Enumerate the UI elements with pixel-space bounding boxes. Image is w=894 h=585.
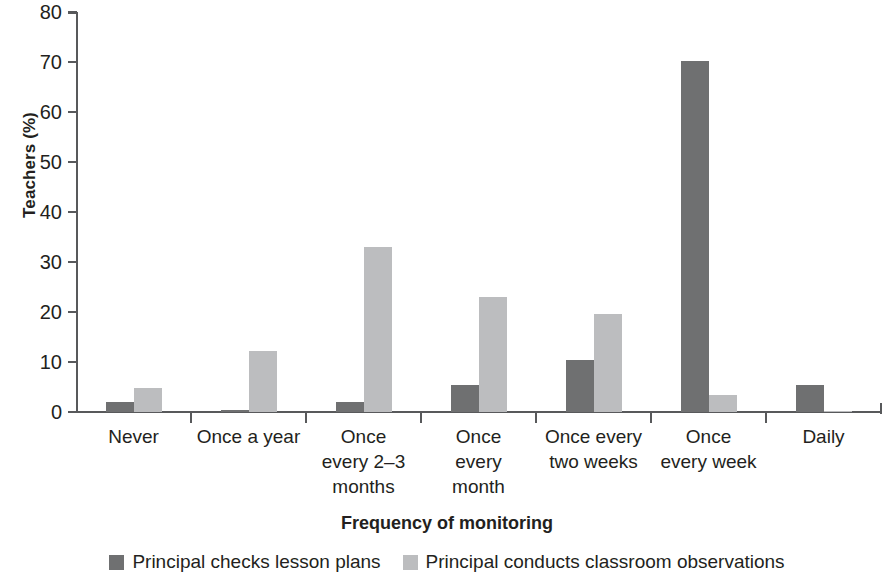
plot-area xyxy=(76,12,881,412)
bar xyxy=(336,402,364,412)
bar xyxy=(364,247,392,412)
bar xyxy=(249,351,277,412)
x-group-tick xyxy=(190,412,192,423)
legend-label: Principal conducts classroom observation… xyxy=(426,551,785,573)
y-tick-label: 80 xyxy=(0,2,62,22)
bar xyxy=(594,314,622,413)
bar xyxy=(134,388,162,412)
x-group-tick xyxy=(765,412,767,423)
bar xyxy=(106,402,134,412)
bar-chart-figure: Teachers (%) 01020304050607080 NeverOnce… xyxy=(0,0,894,585)
bar xyxy=(566,360,594,413)
y-tick-label: 60 xyxy=(0,102,62,122)
x-axis-title: Frequency of monitoring xyxy=(0,513,894,534)
x-group-tick xyxy=(305,412,307,423)
legend-item: Principal checks lesson plans xyxy=(109,551,380,573)
bar xyxy=(451,385,479,413)
bar xyxy=(681,61,709,412)
x-group-tick xyxy=(650,412,652,423)
bar xyxy=(479,297,507,412)
x-group-tick xyxy=(535,412,537,423)
bar xyxy=(796,385,824,413)
bar xyxy=(824,411,852,413)
legend-label: Principal checks lesson plans xyxy=(132,551,380,573)
legend-item: Principal conducts classroom observation… xyxy=(403,551,785,573)
y-tick-label: 50 xyxy=(0,152,62,172)
legend-swatch-icon xyxy=(403,555,418,570)
legend-swatch-icon xyxy=(109,555,124,570)
y-tick-label: 20 xyxy=(0,302,62,322)
y-tick-label: 10 xyxy=(0,352,62,372)
x-category-label: Daily xyxy=(756,424,891,449)
y-tick-label: 70 xyxy=(0,52,62,72)
bar xyxy=(221,410,249,413)
y-tick-label: 0 xyxy=(0,402,62,422)
y-tick-label: 30 xyxy=(0,252,62,272)
y-tick-label: 40 xyxy=(0,202,62,222)
chart-legend: Principal checks lesson plansPrincipal c… xyxy=(0,551,894,573)
bar xyxy=(709,395,737,413)
x-group-tick xyxy=(420,412,422,423)
